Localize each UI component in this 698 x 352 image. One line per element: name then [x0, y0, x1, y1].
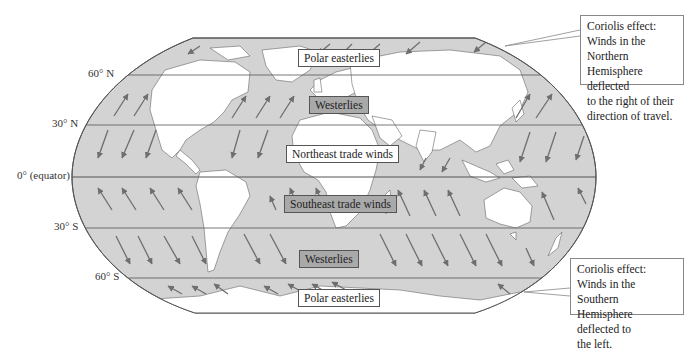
callout-line: Hemisphere deflected to — [577, 307, 677, 337]
wind-label-south-westerlies: Westerlies — [299, 250, 359, 268]
callout-line: the left. — [577, 337, 677, 352]
latitude-label-30s: 30° S — [54, 220, 78, 232]
latitude-label-30n: 30° N — [52, 117, 78, 129]
wind-label-north-polar-easterlies: Polar easterlies — [298, 49, 380, 67]
latitude-label-60n: 60° N — [88, 67, 114, 79]
latitude-label-60s: 60° S — [95, 270, 119, 282]
latitude-label-equator: 0° (equator) — [17, 169, 70, 181]
callout-line: Winds in the Northern — [587, 34, 677, 64]
callout-line: Coriolis effect: — [587, 19, 677, 34]
wind-label-northeast-trade-winds: Northeast trade winds — [286, 145, 399, 163]
wind-label-north-westerlies: Westerlies — [309, 96, 369, 114]
coriolis-callout-north: Coriolis effect: Winds in the Northern H… — [580, 15, 684, 85]
wind-label-southeast-trade-winds: Southeast trade winds — [284, 195, 397, 213]
callout-line: Coriolis effect: — [577, 262, 677, 277]
callout-line: Winds in the Southern — [577, 277, 677, 307]
callout-line: Hemisphere deflected — [587, 64, 677, 94]
callout-line: direction of travel. — [587, 109, 677, 124]
wind-label-south-polar-easterlies: Polar easterlies — [298, 289, 380, 307]
callout-line: to the right of their — [587, 94, 677, 109]
coriolis-callout-south: Coriolis effect: Winds in the Southern H… — [570, 258, 684, 315]
